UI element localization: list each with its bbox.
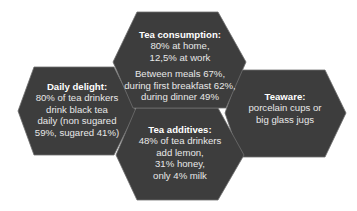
additives-text: Tea additives: 48% of tea drinkers add l… bbox=[125, 124, 235, 181]
consumption-title: Tea consumption: bbox=[120, 29, 240, 40]
consumption-line: during dinner 49% bbox=[120, 91, 240, 102]
additives-line: add lemon, bbox=[125, 147, 235, 158]
consumption-line: 12,5% at work bbox=[120, 52, 240, 63]
consumption-line: Between meals 67%, bbox=[120, 68, 240, 79]
additives-line: 31% honey, bbox=[125, 158, 235, 169]
daily-title: Daily delight: bbox=[22, 81, 132, 92]
daily-line: 80% of tea drinkers bbox=[22, 92, 132, 103]
daily-line: daily (non sugared bbox=[22, 115, 132, 126]
additives-line: 48% of tea drinkers bbox=[125, 135, 235, 146]
consumption-line: during first breakfast 62%, bbox=[120, 80, 240, 91]
teaware-line: big glass jugs bbox=[232, 114, 338, 125]
consumption-text: Tea consumption: 80% at home, 12,5% at w… bbox=[120, 29, 240, 102]
daily-line: 59%, sugared 41%) bbox=[22, 127, 132, 138]
additives-line: only 4% milk bbox=[125, 170, 235, 181]
consumption-line: 80% at home, bbox=[120, 40, 240, 51]
teaware-line: porcelain cups or bbox=[232, 102, 338, 113]
daily-line: drink black tea bbox=[22, 104, 132, 115]
teaware-text: Teaware: porcelain cups or big glass jug… bbox=[232, 91, 338, 125]
daily-text: Daily delight: 80% of tea drinkers drink… bbox=[22, 81, 132, 138]
teaware-title: Teaware: bbox=[232, 91, 338, 102]
additives-title: Tea additives: bbox=[125, 124, 235, 135]
